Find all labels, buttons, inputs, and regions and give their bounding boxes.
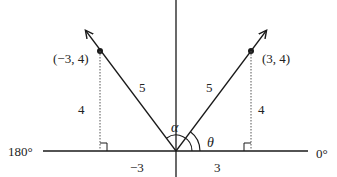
axis-left-end-label: 180° [8,144,33,159]
right-hypotenuse-label: 5 [206,80,213,95]
left-hypotenuse-label: 5 [139,80,146,95]
axis-right-end-label: 0° [316,146,328,161]
left-height-label: 4 [78,102,85,117]
left-base-label: −3 [130,160,144,175]
right-right-angle-mark [244,143,251,151]
left-right-angle-mark [100,143,107,151]
right-height-label: 4 [258,102,265,117]
theta-label: θ [207,135,214,150]
left-point-label: (−3, 4) [53,51,89,66]
right-base-label: 3 [214,160,221,175]
unit-angle-diagram: (−3, 4) (3, 4) 5 5 4 4 −3 3 α θ 180° 0° [0,0,337,177]
alpha-label: α [171,120,179,135]
right-point-label: (3, 4) [262,51,290,66]
